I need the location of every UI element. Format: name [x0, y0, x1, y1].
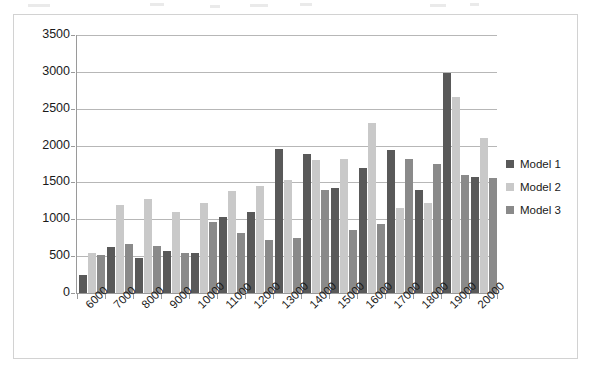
y-axis-tick-label: 1500 — [26, 175, 70, 188]
bar — [107, 247, 115, 293]
x-axis-tick — [217, 294, 218, 299]
y-axis-tick — [71, 35, 75, 36]
y-axis-tick — [71, 256, 75, 257]
bar — [172, 212, 180, 293]
bar-group — [247, 35, 274, 293]
bar — [480, 138, 488, 293]
y-axis-tick-label: 2000 — [26, 139, 70, 152]
bar — [275, 149, 283, 293]
y-axis-tick — [71, 146, 75, 147]
x-axis-tick — [357, 294, 358, 299]
bar — [284, 180, 292, 293]
bar — [396, 208, 404, 293]
bar-group — [471, 35, 498, 293]
bar-group — [415, 35, 442, 293]
chart-frame: 3500300025002000150010005000 60007000800… — [13, 14, 578, 359]
bar — [443, 73, 451, 293]
bar — [312, 160, 320, 293]
bar — [359, 168, 367, 293]
x-axis-tick — [161, 294, 162, 299]
y-axis-tick-label: 500 — [26, 249, 70, 262]
legend-item-label: Model 3 — [520, 204, 561, 216]
bar — [471, 177, 479, 293]
x-axis-tick — [133, 294, 134, 299]
legend-item: Model 1 — [506, 152, 586, 175]
legend-swatch-icon — [506, 183, 514, 191]
bar-group — [275, 35, 302, 293]
x-axis-tick — [329, 294, 330, 299]
x-axis-tick — [497, 294, 498, 299]
bar-group — [163, 35, 190, 293]
bar — [489, 178, 497, 293]
legend-swatch-icon — [506, 160, 514, 168]
bar-group — [443, 35, 470, 293]
bar — [135, 258, 143, 293]
y-axis-tick — [71, 182, 75, 183]
y-axis-tick — [71, 293, 75, 294]
x-axis-tick — [189, 294, 190, 299]
x-axis-tick — [385, 294, 386, 299]
bar — [452, 97, 460, 293]
y-axis-tick-label: 3000 — [26, 65, 70, 78]
legend-item: Model 3 — [506, 198, 586, 221]
y-axis-tick-label: 0 — [26, 286, 70, 299]
bar — [144, 199, 152, 293]
scan-artifact-band — [0, 0, 592, 14]
bar — [368, 123, 376, 293]
bar — [321, 190, 329, 293]
y-axis-labels: 3500300025002000150010005000 — [22, 35, 70, 293]
y-axis-tick-label: 3500 — [26, 28, 70, 41]
bar-group — [359, 35, 386, 293]
y-axis-tick-label: 2500 — [26, 102, 70, 115]
bar-series-layer — [77, 35, 497, 293]
x-axis-tick — [105, 294, 106, 299]
bar — [247, 212, 255, 293]
x-axis-tick — [441, 294, 442, 299]
bar-group — [79, 35, 106, 293]
bar — [424, 203, 432, 293]
bar — [256, 186, 264, 293]
bar-group — [191, 35, 218, 293]
bar-group — [219, 35, 246, 293]
bar — [303, 154, 311, 293]
bar — [387, 150, 395, 293]
bar — [415, 190, 423, 293]
bar-group — [387, 35, 414, 293]
y-axis-tick-label: 1000 — [26, 212, 70, 225]
y-axis-tick — [71, 109, 75, 110]
legend-swatch-icon — [506, 206, 514, 214]
x-axis-tick — [469, 294, 470, 299]
legend-item-label: Model 2 — [520, 181, 561, 193]
x-axis-tick — [77, 294, 78, 299]
plot-area — [77, 35, 497, 293]
bar — [228, 191, 236, 293]
bar — [116, 205, 124, 293]
bar-group — [303, 35, 330, 293]
bar-group — [135, 35, 162, 293]
x-axis-tick — [245, 294, 246, 299]
x-axis-tick — [301, 294, 302, 299]
bar — [331, 188, 339, 293]
bar — [200, 203, 208, 293]
bar — [163, 251, 171, 293]
x-axis-tick — [413, 294, 414, 299]
bar — [461, 175, 469, 293]
x-axis-tick — [273, 294, 274, 299]
bar-group — [331, 35, 358, 293]
bar — [88, 253, 96, 293]
bar-group — [107, 35, 134, 293]
y-axis-tick — [71, 72, 75, 73]
bar — [340, 159, 348, 293]
legend-item-label: Model 1 — [520, 158, 561, 170]
y-axis-tick — [71, 219, 75, 220]
bar — [433, 164, 441, 293]
bar — [79, 275, 87, 293]
bar — [405, 159, 413, 293]
legend-item: Model 2 — [506, 175, 586, 198]
chart-legend: Model 1Model 2Model 3 — [506, 152, 586, 221]
bar — [191, 253, 199, 293]
